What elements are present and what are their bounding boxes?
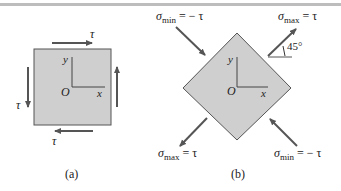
x-axis-label: x bbox=[96, 87, 102, 99]
angle-label: 45° bbox=[287, 40, 302, 52]
origin-label: O bbox=[61, 85, 70, 99]
sigma-max-label-bottom-left: σmax = τ bbox=[158, 146, 197, 162]
panel-a: y O x τ τ τ (a) bbox=[16, 27, 117, 181]
panel-b: y O x σmin = − τ σmax = τ 45° σmax = τ σ… bbox=[156, 9, 321, 181]
stress-diagram: y O x τ τ τ (a) y O x σmin = − τ σmax = … bbox=[0, 0, 341, 191]
caption-a: (a) bbox=[65, 167, 78, 181]
x-axis-label: x bbox=[260, 87, 266, 99]
origin-label: O bbox=[227, 84, 236, 98]
tau-label-bottom: τ bbox=[52, 134, 57, 148]
y-axis-label: y bbox=[227, 53, 233, 65]
sigma-min-arrow-bottom-right bbox=[270, 119, 297, 146]
sigma-min-arrow-top-left bbox=[176, 27, 205, 55]
tau-label-left: τ bbox=[16, 98, 21, 112]
y-axis-label: y bbox=[62, 53, 68, 65]
caption-b: (b) bbox=[231, 167, 245, 181]
sigma-max-label-top-right: σmax = τ bbox=[278, 9, 317, 25]
angle-dimension-tick bbox=[283, 46, 285, 56]
sigma-min-label-bottom-right: σmin = − τ bbox=[274, 146, 321, 162]
sigma-min-label-top-left: σmin = − τ bbox=[156, 9, 203, 25]
tau-label-top: τ bbox=[90, 27, 95, 41]
sigma-max-arrow-bottom-left bbox=[180, 118, 207, 146]
